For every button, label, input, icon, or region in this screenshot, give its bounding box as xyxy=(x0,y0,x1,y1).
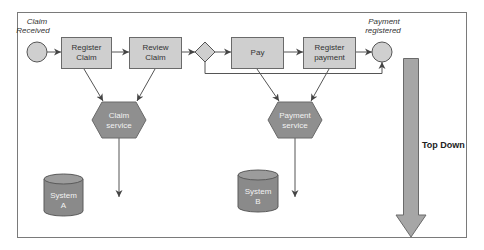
task-register-claim-label-2: Claim xyxy=(76,53,97,62)
payment-service-label-2: service xyxy=(282,121,308,130)
top-down-label: Top Down xyxy=(422,140,465,150)
task-register-claim-label-1: Register xyxy=(72,43,102,52)
payment-service[interactable]: Payment service xyxy=(268,102,322,138)
start-event-label-1: Claim xyxy=(27,17,48,26)
end-event[interactable] xyxy=(372,42,392,62)
system-b-database[interactable]: System B xyxy=(238,170,278,212)
end-event-label-1: Payment xyxy=(368,17,400,26)
task-register-payment[interactable]: Register payment xyxy=(304,38,356,69)
system-a-label-2: A xyxy=(61,201,67,210)
claim-service[interactable]: Claim service xyxy=(92,102,146,138)
start-event[interactable] xyxy=(27,42,47,62)
start-event-label-2: Received xyxy=(16,26,50,35)
task-register-payment-label-2: payment xyxy=(314,53,345,62)
end-event-label-2: registered xyxy=(365,26,401,35)
claim-service-label-1: Claim xyxy=(109,111,130,120)
system-a-database[interactable]: System A xyxy=(44,174,83,216)
process-diagram: Claim Received Register Claim Review Cla… xyxy=(0,0,484,250)
system-b-label-2: B xyxy=(255,197,260,206)
task-review-claim-label-2: Claim xyxy=(145,53,166,62)
task-register-payment-label-1: Register xyxy=(315,43,345,52)
task-review-claim-label-1: Review xyxy=(142,43,168,52)
system-b-label-1: System xyxy=(245,187,272,196)
payment-service-label-1: Payment xyxy=(279,111,311,120)
task-register-claim[interactable]: Register Claim xyxy=(62,38,112,69)
task-pay[interactable]: Pay xyxy=(232,38,284,69)
claim-service-label-2: service xyxy=(106,121,132,130)
system-a-label-1: System xyxy=(50,191,77,200)
task-pay-label: Pay xyxy=(251,48,265,57)
task-review-claim[interactable]: Review Claim xyxy=(130,38,182,69)
